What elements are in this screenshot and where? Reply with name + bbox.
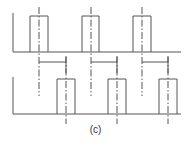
- top-pulse-train: [13, 7, 181, 96]
- figure-caption: (c): [0, 124, 191, 135]
- bottom-pulse-train: [13, 56, 181, 124]
- delay-brackets: [39, 57, 168, 73]
